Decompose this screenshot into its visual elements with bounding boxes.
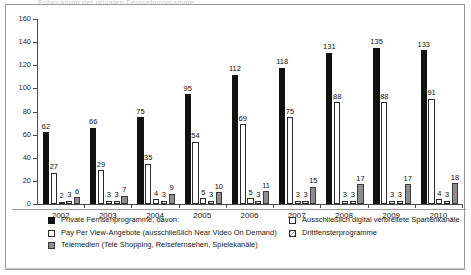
y-tick-label: 140 [18, 39, 31, 47]
bar-spartenkanaele-2008 [342, 201, 348, 204]
bar-value-label: 95 [184, 85, 192, 93]
bar-ppv-2003 [98, 170, 104, 204]
bar-private-2010 [421, 50, 427, 204]
bar-telemedien-2004 [169, 194, 175, 204]
x-tick [462, 204, 463, 208]
legend-swatch-icon [48, 217, 55, 224]
legend-column-left: Private Fernsehprogramme, davon:Pay Per … [48, 216, 277, 254]
bar-value-label: 133 [418, 41, 431, 49]
bar-spartenkanaele-2006 [247, 198, 253, 204]
legend-swatch-icon [48, 242, 55, 249]
y-axis [37, 19, 38, 205]
x-tick [368, 204, 369, 208]
y-tick [33, 112, 37, 113]
bar-drittfenster-2007 [302, 201, 308, 204]
y-tick-label: 40 [23, 154, 31, 162]
bar-value-label: 29 [97, 161, 105, 169]
bar-value-label: 2 [60, 192, 64, 200]
legend-label: Ausschließlich digital verbreitete Spart… [302, 216, 460, 224]
bar-drittfenster-2006 [255, 201, 261, 204]
y-tick-label: 80 [23, 108, 31, 116]
x-tick [320, 204, 321, 208]
legend-swatch-icon [48, 230, 55, 237]
y-tick [33, 19, 37, 20]
x-axis [37, 204, 462, 205]
y-tick-label: 60 [23, 131, 31, 139]
x-tick [131, 204, 132, 208]
x-tick [179, 204, 180, 208]
bar-telemedien-2010 [452, 183, 458, 204]
bar-value-label: 17 [404, 175, 412, 183]
bar-value-label: 11 [262, 182, 270, 190]
bar-spartenkanaele-2005 [200, 198, 206, 204]
bar-value-label: 3 [445, 191, 449, 199]
bar-value-label: 75 [286, 108, 294, 116]
bar-private-2008 [326, 53, 332, 204]
bar-private-2003 [90, 128, 96, 204]
bar-value-label: 3 [351, 191, 355, 199]
bar-ppv-2006 [240, 124, 246, 204]
plot-area: 020406080100120140160 622723666293377535… [37, 19, 462, 205]
bar-value-label: 112 [229, 65, 241, 73]
bar-value-label: 3 [303, 191, 307, 199]
legend-label: Pay Per View-Angebote (ausschließlich Ne… [61, 229, 277, 237]
bar-value-label: 5 [248, 189, 252, 197]
y-tick [33, 88, 37, 89]
legend-item-left-2: Telemedien (Tele Shopping, Reisefernsehe… [48, 241, 277, 249]
bar-drittfenster-2009 [397, 201, 403, 204]
bar-value-label: 3 [390, 191, 394, 199]
bar-value-label: 3 [343, 191, 347, 199]
legend-swatch-icon [289, 230, 296, 237]
bar-spartenkanaele-2004 [153, 199, 159, 204]
chart-frame: 020406080100120140160 622723666293377535… [5, 4, 465, 270]
bar-value-label: 10 [215, 183, 223, 191]
bar-value-label: 3 [296, 191, 300, 199]
bar-drittfenster-2008 [350, 201, 356, 204]
legend-swatch-icon [289, 217, 296, 224]
bar-value-label: 3 [209, 191, 213, 199]
bar-private-2007 [279, 68, 285, 204]
bar-value-label: 15 [309, 177, 317, 185]
legend-column-right: Ausschließlich digital verbreitete Spart… [289, 216, 460, 241]
bar-ppv-2007 [287, 117, 293, 204]
bar-private-2006 [232, 75, 238, 205]
bar-value-label: 91 [427, 89, 435, 97]
bar-ppv-2004 [145, 164, 151, 204]
bar-value-label: 3 [67, 191, 71, 199]
legend-label: Private Fernsehprogramme, davon: [61, 216, 179, 224]
bar-private-2009 [373, 48, 379, 204]
bar-value-label: 3 [115, 191, 119, 199]
bar-ppv-2010 [428, 99, 434, 204]
legend-item-left-0: Private Fernsehprogramme, davon: [48, 216, 277, 224]
chart-legend: Private Fernsehprogramme, davon:Pay Per … [12, 209, 466, 272]
bar-private-2005 [185, 94, 191, 204]
x-tick [415, 204, 416, 208]
x-tick [273, 204, 274, 208]
bar-value-label: 4 [437, 190, 441, 198]
bar-value-label: 131 [323, 43, 336, 51]
bar-ppv-2002 [51, 173, 57, 204]
bar-value-label: 135 [370, 38, 383, 46]
bar-value-label: 7 [122, 186, 126, 194]
bar-drittfenster-2005 [208, 201, 214, 204]
bar-spartenkanaele-2009 [389, 201, 395, 204]
y-tick [33, 158, 37, 159]
bar-value-label: 88 [380, 93, 388, 101]
bar-value-label: 62 [42, 123, 50, 131]
bar-telemedien-2009 [405, 184, 411, 204]
bar-ppv-2008 [334, 102, 340, 204]
y-tick-label: 0 [27, 200, 31, 208]
bar-spartenkanaele-2007 [295, 201, 301, 204]
bar-spartenkanaele-2010 [436, 199, 442, 204]
bottom-rule [5, 268, 465, 269]
y-tick-label: 20 [23, 177, 31, 185]
y-tick [33, 65, 37, 66]
bar-telemedien-2006 [263, 191, 269, 204]
bar-value-label: 5 [201, 189, 205, 197]
bar-value-label: 69 [239, 115, 247, 123]
x-tick [84, 204, 85, 208]
bar-drittfenster-2002 [66, 201, 72, 204]
legend-item-right-0: Ausschließlich digital verbreitete Spart… [289, 216, 460, 224]
bar-private-2004 [137, 117, 143, 204]
bar-value-label: 3 [107, 191, 111, 199]
